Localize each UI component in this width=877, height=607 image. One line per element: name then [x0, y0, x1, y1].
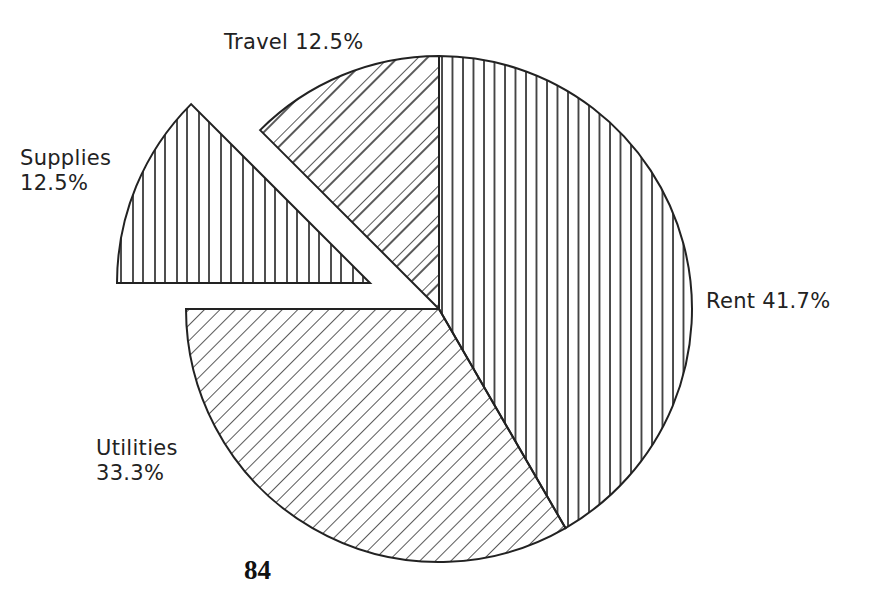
label-supplies: Supplies 12.5% — [20, 146, 111, 196]
label-utilities-pct: 33.3% — [96, 461, 178, 486]
page-number: 84 — [244, 555, 271, 586]
label-rent: Rent 41.7% — [706, 289, 831, 314]
label-utilities-name: Utilities — [96, 436, 178, 461]
label-supplies-pct: 12.5% — [20, 171, 111, 196]
label-travel: Travel 12.5% — [224, 30, 363, 55]
label-supplies-name: Supplies — [20, 146, 111, 171]
label-utilities: Utilities 33.3% — [96, 436, 178, 486]
